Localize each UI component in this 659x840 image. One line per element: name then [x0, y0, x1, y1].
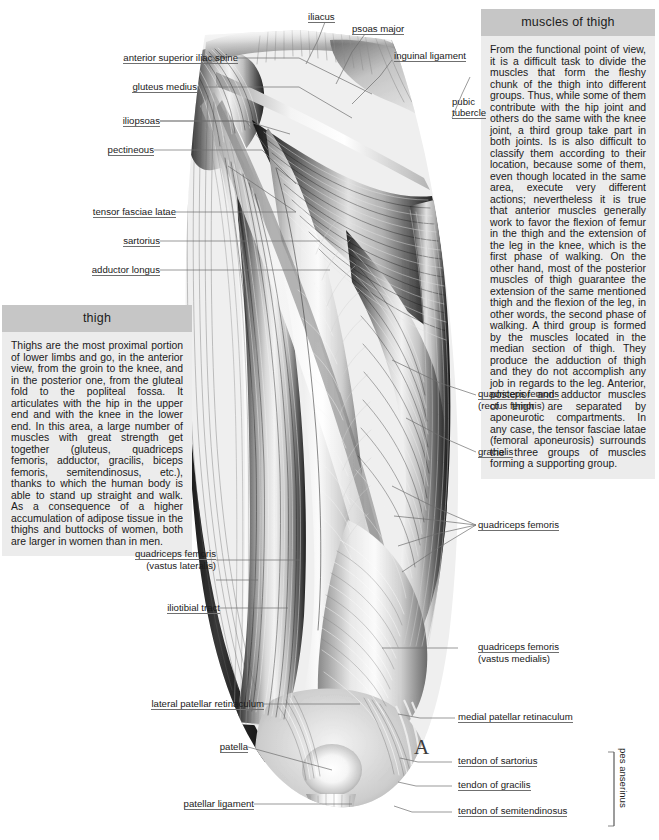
panel-muscles-of-thigh-heading: muscles of thigh — [481, 9, 655, 36]
label-quadriceps-femoris-vastus-lateralis: quadriceps femoris (vastus lateralis) — [96, 548, 216, 571]
label-pes-anserinus: pes anserinus — [618, 748, 629, 808]
label-iliopsoas: iliopsoas — [60, 115, 160, 127]
label-patella: patella — [178, 741, 248, 753]
label-adductor-longus: adductor longus — [50, 264, 160, 276]
label-inguinal-ligament: inguinal ligament — [394, 50, 466, 62]
label-lateral-patellar-retinaculum: lateral patellar retinaculum — [104, 698, 264, 710]
label-iliacus: iliacus — [308, 11, 335, 23]
limb-body — [150, 18, 480, 840]
figure-marker-a: A — [414, 735, 429, 760]
panel-thigh-heading: thigh — [2, 305, 192, 332]
label-iliotibial-tract: iliotibial tract — [120, 602, 220, 614]
label-gluteus-medius: gluteus medius — [57, 81, 197, 93]
label-sartorius: sartorius — [70, 235, 160, 247]
atlas-page: muscles of thigh From the functional poi… — [0, 0, 659, 840]
patella-bone — [302, 744, 362, 796]
label-quadriceps-femoris: quadriceps femoris — [478, 519, 559, 531]
panel-muscles-of-thigh-body: From the functional point of view, it is… — [481, 36, 655, 479]
label-pectineous: pectineous — [54, 144, 154, 156]
label-tendon-of-semitendinosus: tendon of semitendinosus — [458, 805, 567, 817]
label-tendon-of-sartorius: tendon of sartorius — [458, 755, 537, 767]
label-tensor-fasciae-latae: tensor fasciae latae — [56, 206, 176, 218]
label-medial-patellar-retinaculum: medial patellar retinaculum — [458, 711, 573, 723]
label-quadriceps-femoris-vastus-medialis: quadriceps femoris (vastus medialis) — [478, 641, 559, 664]
label-tendon-of-gracilis: tendon of gracilis — [458, 779, 531, 791]
label-pubic-tubercle: pubic tubercle — [452, 96, 486, 119]
panel-thigh: thigh Thighs are the most proximal porti… — [2, 305, 192, 556]
label-psoas-major: psoas major — [352, 23, 404, 35]
label-anterior-superior-iliac-spine: anterior superior iliac spine — [58, 52, 238, 64]
label-quadriceps-femoris-rectus-femoris: quadriceps femoris (rectus femoris) — [478, 388, 559, 411]
panel-thigh-body: Thighs are the most proximal portion of … — [2, 332, 192, 556]
label-gracialis: gracialis — [478, 446, 513, 458]
label-patellar-ligament: patellar ligament — [154, 798, 254, 810]
patellar-ligament-band — [306, 794, 356, 840]
